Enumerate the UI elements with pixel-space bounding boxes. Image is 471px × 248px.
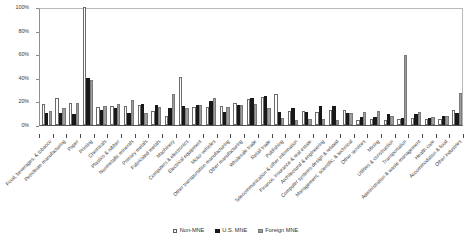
bar <box>267 108 270 125</box>
x-tick-mark <box>217 134 218 138</box>
bar-group <box>356 9 366 125</box>
bar-group <box>384 9 394 125</box>
bar <box>185 108 188 125</box>
bar <box>404 55 407 125</box>
legend-label: Non-MNE <box>180 228 205 234</box>
y-tick-mark <box>36 126 39 127</box>
bar <box>226 107 229 125</box>
bar <box>76 103 79 125</box>
bar <box>240 105 243 125</box>
bar-group <box>165 9 175 125</box>
bar <box>213 98 216 125</box>
bar-group <box>411 9 421 125</box>
bar <box>254 104 257 125</box>
legend-label: U.S. MNE <box>222 228 247 234</box>
bar <box>158 107 161 125</box>
x-tick-mark <box>463 134 464 138</box>
bar-group <box>42 9 52 125</box>
x-tick-mark <box>326 134 327 138</box>
bar <box>281 118 284 125</box>
bar-group <box>83 9 93 125</box>
x-tick-mark <box>107 134 108 138</box>
bar-group <box>124 9 134 125</box>
legend-label: Foreign MNE <box>265 228 298 234</box>
bar-group <box>138 9 148 125</box>
x-tick-mark <box>367 134 368 138</box>
bar <box>418 112 421 125</box>
x-axis-labels: Food, beverages, & tobaccoPetroleum manu… <box>0 139 471 225</box>
bar-group <box>151 9 161 125</box>
bar <box>49 111 52 125</box>
bar-group <box>233 9 243 125</box>
bar-group <box>69 9 79 125</box>
x-tick-mark <box>244 134 245 138</box>
bar-chart: 0%20%40%60%80%100% Food, beverages, & to… <box>0 0 471 248</box>
y-tick-label: 80% <box>19 29 30 34</box>
bar-group <box>315 9 325 125</box>
bar <box>199 105 202 125</box>
bar-group <box>206 9 216 125</box>
x-tick-mark <box>189 134 190 138</box>
x-tick-mark <box>285 134 286 138</box>
x-tick-mark <box>408 134 409 138</box>
y-tick-label: 100% <box>16 5 29 10</box>
x-tick-mark <box>66 134 67 138</box>
bar-group <box>425 9 435 125</box>
x-tick-mark <box>436 134 437 138</box>
bars-layer <box>40 9 462 125</box>
bar <box>295 120 298 125</box>
bar-group <box>55 9 65 125</box>
x-tick-mark <box>299 134 300 138</box>
bar-group <box>220 9 230 125</box>
x-tick-mark <box>340 134 341 138</box>
bar <box>377 111 380 125</box>
plot-area <box>39 8 463 126</box>
bar-group <box>261 9 271 125</box>
bar-group <box>343 9 353 125</box>
bar-group <box>96 9 106 125</box>
x-tick-mark <box>53 134 54 138</box>
bar-group <box>438 9 448 125</box>
x-tick-mark <box>39 134 40 138</box>
bar-group <box>452 9 462 125</box>
bar <box>308 119 311 125</box>
x-tick-mark <box>381 134 382 138</box>
x-tick-mark <box>354 134 355 138</box>
bar <box>90 80 93 125</box>
legend-item: Foreign MNE <box>258 228 298 234</box>
black-square-swatch <box>215 229 220 234</box>
gray-square-swatch <box>258 229 263 234</box>
bar <box>117 104 120 125</box>
x-tick-mark <box>148 134 149 138</box>
bar <box>103 106 106 125</box>
bar-group <box>110 9 120 125</box>
white-square-swatch <box>173 229 178 234</box>
bar <box>445 116 448 125</box>
legend-item: Non-MNE <box>173 228 205 234</box>
bar-group <box>302 9 312 125</box>
bar <box>390 116 393 125</box>
y-tick-label: 0% <box>21 123 29 128</box>
bar-group <box>288 9 298 125</box>
x-tick-mark <box>94 134 95 138</box>
x-tick-mark <box>449 134 450 138</box>
plot-wrapper: 0%20%40%60%80%100% Food, beverages, & to… <box>0 8 471 133</box>
bar-group <box>179 9 189 125</box>
bar <box>459 93 462 125</box>
x-tick-mark <box>395 134 396 138</box>
bar-group <box>329 9 339 125</box>
x-tick-mark <box>258 134 259 138</box>
bar <box>349 113 352 125</box>
x-tick-mark <box>162 134 163 138</box>
y-axis: 0%20%40%60%80%100% <box>0 8 33 126</box>
x-tick-mark <box>135 134 136 138</box>
bar <box>131 100 134 125</box>
x-tick-mark <box>176 134 177 138</box>
x-tick-mark <box>203 134 204 138</box>
legend-item: U.S. MNE <box>215 228 247 234</box>
bar <box>322 119 325 125</box>
x-tick-mark <box>422 134 423 138</box>
chart-legend: Non-MNEU.S. MNEForeign MNE <box>0 228 471 234</box>
y-tick-label: 40% <box>19 76 30 81</box>
bar <box>172 94 175 125</box>
